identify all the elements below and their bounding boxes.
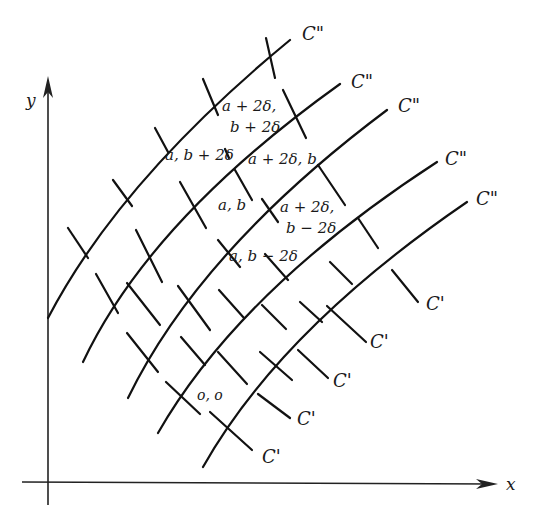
point-label-upper-left: a, b + 2δ — [165, 146, 234, 164]
c-prime-tick — [180, 182, 206, 228]
c-double-prime-curve-5 — [203, 202, 467, 467]
c-prime-tick — [298, 350, 328, 378]
c-double-prime-label-4: C" — [445, 148, 467, 169]
c-prime-tick — [392, 270, 418, 302]
c-prime-tick — [327, 306, 366, 342]
c-double-prime-labels: C" C" C" C" C" — [302, 23, 498, 209]
axes: y x — [22, 76, 516, 505]
point-label-top-b: b + 2δ — [230, 118, 280, 136]
c-prime-tick — [166, 382, 200, 414]
point-labels: a + 2δ, b + 2δ a, b + 2δ a + 2δ, b a, b … — [165, 97, 336, 403]
curvilinear-grid-diagram: y x — [0, 0, 536, 523]
c-prime-tick — [358, 218, 378, 248]
point-label-right-a: a + 2δ, — [280, 198, 334, 216]
c-prime-label-1: C' — [426, 293, 445, 314]
x-axis — [22, 482, 492, 484]
c-double-prime-label-3: C" — [398, 95, 420, 116]
c-prime-tick — [113, 180, 132, 206]
c-prime-tick — [260, 352, 292, 380]
c-prime-tick — [219, 290, 244, 318]
c-prime-tick — [300, 302, 322, 322]
c-prime-tick — [181, 337, 205, 365]
c-prime-tick — [127, 283, 160, 325]
point-label-upper-right: a + 2δ, b — [248, 150, 317, 168]
c-double-prime-label-5: C" — [476, 188, 498, 209]
c-prime-tick — [283, 90, 306, 138]
c-prime-tick — [68, 228, 88, 258]
x-axis-label: x — [506, 474, 516, 494]
c-prime-tick — [258, 394, 290, 418]
c-double-prime-curve-1 — [48, 40, 290, 318]
c-prime-tick — [262, 305, 286, 329]
c-prime-label-2: C' — [370, 331, 389, 352]
c-prime-label-4: C' — [297, 408, 316, 429]
point-label-right-b: b − 2δ — [286, 219, 336, 237]
c-prime-tick — [218, 352, 247, 384]
point-label-top-a: a + 2δ, — [222, 97, 276, 115]
point-label-origin: o, o — [197, 387, 223, 403]
y-axis-label: y — [25, 90, 36, 110]
c-double-prime-label-1: C" — [302, 23, 324, 44]
c-prime-tick — [136, 230, 162, 282]
c-prime-label-5: C' — [262, 446, 281, 467]
c-prime-labels: C' C' C' C' C' — [262, 293, 445, 467]
point-label-lower: a, b − 2δ — [229, 247, 298, 265]
point-label-center: a, b — [218, 196, 246, 214]
c-prime-label-3: C' — [333, 370, 352, 391]
c-double-prime-label-2: C" — [351, 71, 373, 92]
c-prime-tick — [96, 274, 118, 313]
c-prime-tick — [330, 262, 352, 284]
